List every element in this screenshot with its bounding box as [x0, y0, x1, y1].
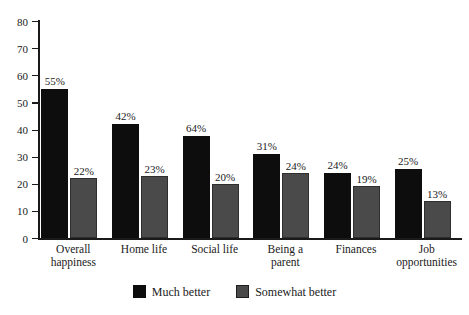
bar-value-label: 24% [327, 160, 347, 171]
bar-much-better: 25% [395, 169, 422, 238]
bar-value-label: 23% [144, 164, 164, 175]
y-axis-tick-label: 0 [23, 233, 29, 244]
bar-much-better: 42% [112, 124, 139, 238]
plot-area: 55%22%42%23%64%20%31%24%24%19%25%13% [38, 21, 462, 238]
bar-somewhat-better: 22% [70, 178, 97, 238]
category-label: Being aparent [250, 243, 321, 269]
y-axis-tick-label: 70 [17, 43, 28, 54]
bar-value-label: 22% [74, 166, 94, 177]
bar-somewhat-better: 19% [353, 186, 380, 238]
y-axis-tick-label: 10 [17, 206, 28, 217]
y-axis-tick-label: 20 [17, 179, 28, 190]
legend-swatch-much [133, 285, 146, 298]
y-axis-tick-label: 40 [17, 125, 28, 136]
category-label: Social life [179, 243, 250, 256]
bar-much-better: 55% [41, 89, 68, 238]
bar-value-label: 19% [356, 174, 376, 185]
category-label: Jobopportunities [391, 243, 462, 269]
category-label-line: Job [391, 243, 462, 256]
category-label-line: parent [250, 256, 321, 269]
bar-group: 31%24% [250, 21, 321, 238]
category-label-line: Overall [38, 243, 109, 256]
bar-value-label: 24% [286, 161, 306, 172]
legend-swatch-somewhat [236, 285, 249, 298]
chart-legend: Much betterSomewhat better [0, 285, 469, 298]
bar-somewhat-better: 20% [212, 184, 239, 238]
bar-group: 24%19% [321, 21, 392, 238]
bar-value-label: 64% [186, 123, 206, 134]
category-label-line: Social life [179, 243, 250, 256]
y-axis-tick-label: 30 [17, 152, 28, 163]
category-label-line: happiness [38, 256, 109, 269]
category-label: Overallhappiness [38, 243, 109, 269]
category-label-line: Home life [109, 243, 180, 256]
x-axis-line [38, 238, 462, 240]
bar-much-better: 31% [253, 154, 280, 238]
bar-value-label: 55% [45, 76, 65, 87]
bar-somewhat-better: 23% [141, 176, 168, 238]
category-label: Home life [109, 243, 180, 256]
bar-value-label: 25% [398, 156, 418, 167]
bar-group: 64%20% [179, 21, 250, 238]
y-axis-tick-label: 80 [17, 16, 28, 27]
bar-somewhat-better: 13% [424, 201, 451, 238]
bar-value-label: 13% [427, 189, 447, 200]
y-axis-tick: 0 [32, 238, 38, 239]
bar-group: 42%23% [109, 21, 180, 238]
category-label-line: opportunities [391, 256, 462, 269]
bar-value-label: 20% [215, 172, 235, 183]
bar-much-better: 64% [183, 136, 210, 238]
legend-item: Much better [133, 285, 210, 298]
legend-label: Much better [152, 286, 210, 298]
category-label: Finances [321, 243, 392, 256]
bar-group: 55%22% [38, 21, 109, 238]
y-axis-tick-label: 60 [17, 70, 28, 81]
bar-chart: 01020304050607080 55%22%42%23%64%20%31%2… [0, 0, 469, 315]
category-label-line: Being a [250, 243, 321, 256]
category-label-line: Finances [321, 243, 392, 256]
bar-much-better: 24% [324, 173, 351, 238]
legend-label: Somewhat better [255, 286, 336, 298]
bar-value-label: 31% [257, 141, 277, 152]
legend-item: Somewhat better [236, 285, 336, 298]
y-axis-tick-label: 50 [17, 97, 28, 108]
bar-group: 25%13% [391, 21, 462, 238]
bar-value-label: 42% [115, 111, 135, 122]
bar-somewhat-better: 24% [282, 173, 309, 238]
